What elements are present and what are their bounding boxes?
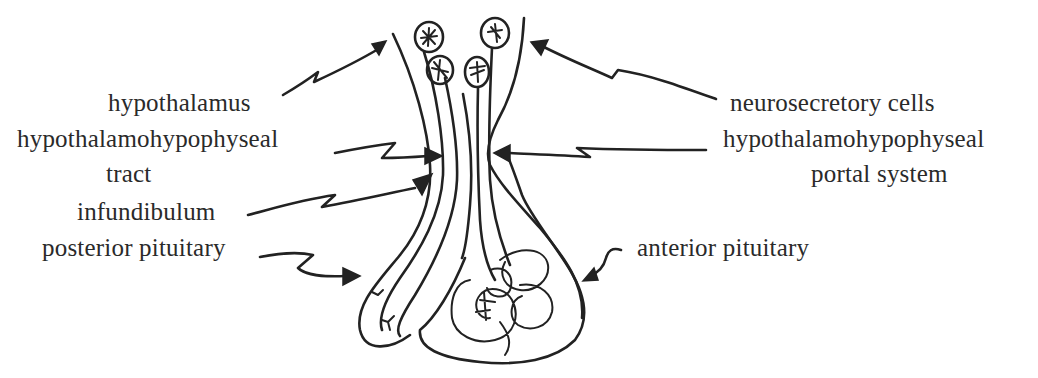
portal-vessel-1 bbox=[478, 88, 495, 280]
arrow-head-tract bbox=[425, 148, 442, 164]
label-posterior-pituitary: posterior pituitary bbox=[42, 234, 226, 262]
arrow-head-posterior-pituitary bbox=[343, 268, 360, 285]
anterior-cell-cluster bbox=[452, 250, 553, 355]
posterior-anterior-divider bbox=[462, 94, 471, 258]
label-tract-line2: tract bbox=[106, 160, 151, 188]
arrow-head-portal-system bbox=[494, 145, 510, 162]
pituitary-diagram: hypothalamus hypothalamohypophyseal trac… bbox=[0, 0, 1038, 378]
tract-line-inner bbox=[398, 78, 457, 336]
arrow-neurosecretory bbox=[540, 45, 716, 99]
label-hypothalamus: hypothalamus bbox=[108, 89, 251, 117]
arrow-tract bbox=[335, 143, 428, 158]
axon-ending-1 bbox=[372, 290, 383, 295]
label-anterior-pituitary: anterior pituitary bbox=[637, 234, 809, 262]
arrow-portal-system bbox=[510, 148, 706, 157]
neuron-cell-4-nucleus bbox=[470, 62, 485, 82]
neuron-cell-1-nucleus bbox=[421, 28, 437, 46]
label-infundibulum: infundibulum bbox=[77, 198, 216, 226]
arrow-hypothalamus bbox=[283, 48, 380, 95]
arrow-posterior-pituitary bbox=[260, 253, 345, 276]
label-tract-line1: hypothalamohypophyseal bbox=[17, 125, 278, 153]
label-portal-line1: hypothalamohypophyseal bbox=[723, 125, 984, 153]
tract-line-outer bbox=[381, 52, 443, 330]
axon-ending-2 bbox=[382, 316, 394, 330]
neuron-cell-2-nucleus bbox=[432, 60, 448, 80]
label-neurosecretory-cells: neurosecretory cells bbox=[730, 89, 935, 117]
label-portal-line2: portal system bbox=[811, 160, 948, 188]
arrow-head-anterior-pituitary bbox=[583, 268, 598, 281]
arrow-infundibulum bbox=[248, 188, 415, 215]
neuron-cell-3-nucleus bbox=[488, 24, 502, 42]
pituitary-drawing bbox=[0, 0, 1038, 378]
